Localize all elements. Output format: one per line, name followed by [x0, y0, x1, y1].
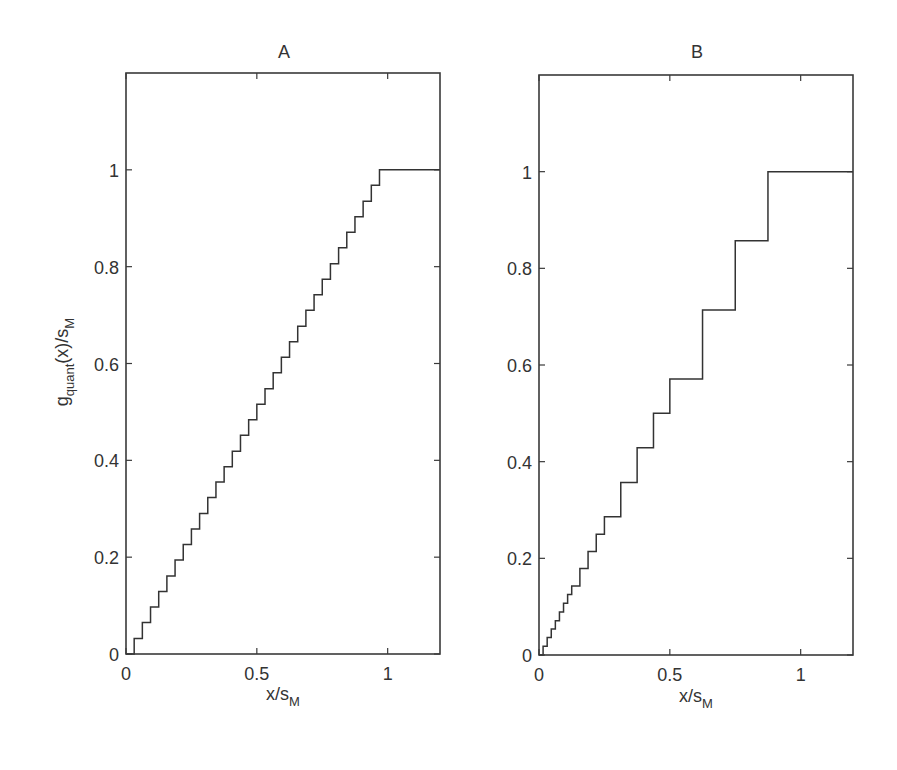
y-tick-label: 0.2	[94, 548, 119, 568]
x-tick-label: 1	[796, 665, 806, 685]
panel-a: A 00.5100.20.40.60.81 x/sM gquant(x)/sM	[52, 42, 440, 709]
panel-b-staircase-line	[539, 172, 853, 655]
panel-a-x-axis-label: x/sM	[266, 684, 300, 709]
panel-b-title: B	[691, 42, 703, 62]
panel-a-tick-labels: 00.5100.20.40.60.81	[94, 161, 393, 684]
figure: A 00.5100.20.40.60.81 x/sM gquant(x)/sM …	[0, 0, 897, 770]
x-tick-label: 0	[121, 664, 131, 684]
x-tick-label: 0	[534, 665, 544, 685]
y-tick-label: 0.2	[507, 549, 532, 569]
panel-a-title: A	[278, 42, 290, 62]
panel-a-axes-frame	[126, 73, 440, 654]
y-tick-label: 0	[522, 646, 532, 666]
y-tick-label: 1	[109, 161, 119, 181]
y-tick-label: 0.4	[94, 451, 119, 471]
panel-b-x-axis-label: x/sM	[679, 686, 713, 711]
panel-a-staircase-line	[126, 170, 440, 654]
y-tick-label: 0.4	[507, 453, 532, 473]
panel-b: B 00.5100.20.40.60.81 x/sM	[507, 42, 853, 711]
x-tick-label: 0.5	[657, 665, 682, 685]
y-tick-label: 0.6	[94, 355, 119, 375]
y-tick-label: 0	[109, 645, 119, 665]
y-tick-label: 0.8	[507, 259, 532, 279]
x-tick-label: 0.5	[244, 664, 269, 684]
y-tick-label: 0.6	[507, 356, 532, 376]
y-tick-label: 1	[522, 163, 532, 183]
x-tick-label: 1	[383, 664, 393, 684]
y-tick-label: 0.8	[94, 258, 119, 278]
panel-a-y-axis-label: gquant(x)/sM	[52, 318, 77, 406]
panel-a-ticks	[126, 73, 440, 654]
